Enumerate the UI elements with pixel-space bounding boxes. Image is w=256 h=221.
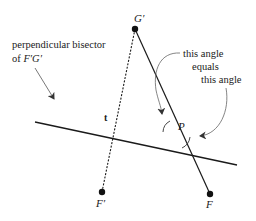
bisector-pointer-arrow-icon — [35, 68, 54, 99]
label-t: t — [104, 112, 108, 123]
angle-note-line1: this angle — [183, 48, 224, 59]
dashed-segment-fprime-gprime — [102, 29, 135, 192]
label-g-prime: G′ — [134, 12, 145, 24]
bisector-label-segment: F′G′ — [22, 53, 42, 64]
curved-arrow-upper-icon — [155, 53, 180, 114]
point-g-prime — [132, 26, 138, 32]
label-f: F — [205, 198, 213, 210]
label-f-prime: F′ — [95, 197, 106, 209]
angle-note-line2: equals — [192, 61, 219, 72]
bisector-label-line2: of F′G′ — [12, 53, 43, 64]
angle-note-line3: this angle — [201, 74, 242, 85]
point-f-prime — [99, 189, 105, 195]
perpendicular-bisector-line — [35, 122, 237, 165]
bisector-label-line1: perpendicular bisector — [12, 39, 106, 50]
angle-arc-upper — [163, 121, 170, 132]
curved-arrow-lower-icon — [200, 88, 227, 136]
label-p: P — [177, 120, 185, 132]
bisector-label-prefix: of — [12, 53, 23, 64]
point-f — [207, 191, 213, 197]
reflection-diagram: perpendicular bisector of F′G′ this angl… — [0, 0, 256, 221]
